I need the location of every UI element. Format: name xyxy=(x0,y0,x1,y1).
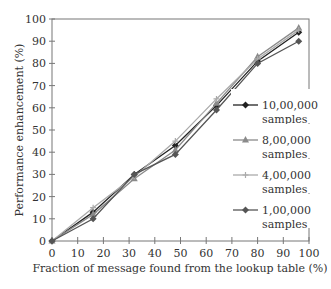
y-axis: 0102030405060708090100 xyxy=(25,13,55,248)
legend-item: 10,00,000samples xyxy=(231,89,318,126)
legend-item: 8,00,000samples xyxy=(231,124,311,161)
x-tick-label: 60 xyxy=(199,247,213,260)
legend-label: 8,00,000 xyxy=(262,134,311,147)
legend-item: 1,00,000samples xyxy=(231,194,311,231)
x-tick-label: 50 xyxy=(174,247,188,260)
x-tick-label: 20 xyxy=(96,247,110,260)
y-tick-label: 80 xyxy=(32,57,46,70)
y-tick-label: 90 xyxy=(32,35,46,48)
x-axis-label: Fraction of message found from the looku… xyxy=(32,262,327,275)
y-tick-label: 40 xyxy=(32,146,46,159)
x-tick-label: 30 xyxy=(122,247,136,260)
y-tick-label: 10 xyxy=(32,213,46,226)
line-chart: 0102030405060708090100 01020304050607080… xyxy=(0,0,331,289)
y-tick-label: 100 xyxy=(25,13,46,26)
legend-label: 10,00,000 xyxy=(262,99,318,112)
legend-label: 4,00,000 xyxy=(262,169,311,182)
y-tick-label: 0 xyxy=(39,235,46,248)
x-tick-label: 80 xyxy=(251,247,265,260)
x-tick-label: 40 xyxy=(148,247,162,260)
x-tick-label: 0 xyxy=(49,247,56,260)
y-axis-label: Performance enhancement (%) xyxy=(13,44,26,217)
legend-label: 1,00,000 xyxy=(262,204,311,217)
y-tick-label: 50 xyxy=(32,124,46,137)
x-tick-label: 10 xyxy=(71,247,85,260)
y-tick-label: 70 xyxy=(32,80,46,93)
legend-label: samples xyxy=(262,218,308,231)
y-tick-label: 20 xyxy=(32,191,46,204)
x-tick-label: 100 xyxy=(299,247,320,260)
y-tick-label: 30 xyxy=(32,168,46,181)
x-axis: 0102030405060708090100 xyxy=(49,237,320,260)
chart-canvas: 0102030405060708090100 01020304050607080… xyxy=(0,0,331,289)
y-tick-label: 60 xyxy=(32,102,46,115)
legend-item: 4,00,000samples xyxy=(231,159,311,196)
diamond-marker-icon xyxy=(295,38,302,45)
x-tick-label: 90 xyxy=(276,247,290,260)
x-tick-label: 70 xyxy=(225,247,239,260)
legend: 10,00,000samples8,00,000samples4,00,000s… xyxy=(231,89,318,231)
